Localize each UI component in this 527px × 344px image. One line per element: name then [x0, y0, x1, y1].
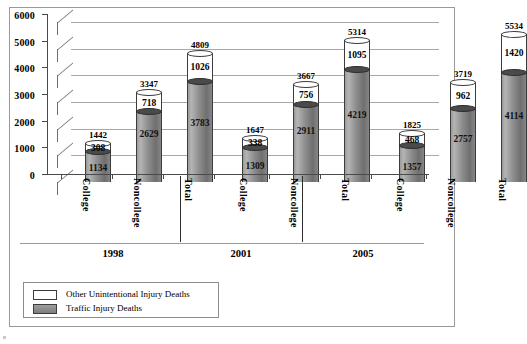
group-separator	[180, 176, 181, 242]
bar-segment-traffic: 2757	[450, 108, 476, 182]
bar-segment-label: 2757	[454, 134, 473, 144]
x-tick	[371, 175, 372, 179]
x-axis	[47, 174, 429, 175]
scan-artifact	[3, 336, 6, 339]
grid-riser	[57, 75, 73, 88]
y-tick: 3000	[42, 94, 48, 95]
grid-riser	[57, 22, 73, 35]
bar-segment-traffic: 4219	[344, 70, 370, 183]
bar-segment-traffic: 2629	[136, 112, 162, 182]
x-tick	[214, 175, 215, 179]
bar-2001-noncollege[interactable]: 3667 756 2911	[293, 84, 319, 182]
y-axis-label: 2000	[14, 116, 35, 127]
gridline-4000	[71, 75, 439, 76]
bar-segment-label: 1095	[348, 50, 367, 60]
bar-segment-traffic: 1309	[242, 147, 268, 182]
x-category-label: College	[395, 178, 406, 212]
gridline-5000	[71, 49, 439, 50]
x-category-label: Noncollege	[289, 178, 300, 228]
gridline-6000	[71, 22, 439, 23]
bar-segment-label: 308	[91, 143, 105, 153]
bar-segment-label: 468	[405, 135, 419, 145]
grid-riser	[57, 155, 73, 168]
bar-segment-label: 1026	[191, 62, 210, 72]
bar-total-label: 3347	[140, 79, 158, 89]
y-axis-label: 4000	[14, 63, 35, 74]
bar-segment-label: 2911	[297, 126, 315, 136]
bar-total-label: 5534	[505, 21, 523, 31]
group-label-1998: 1998	[58, 248, 168, 259]
y-axis-label: 5000	[14, 36, 35, 47]
group-label-2001: 2001	[186, 248, 296, 259]
bar-segment-label: 4114	[505, 111, 523, 121]
group-separator	[302, 176, 303, 242]
y-axis-label: 3000	[14, 90, 35, 101]
x-category-label: Total	[183, 178, 194, 201]
bar-1998-noncollege[interactable]: 3347 718 2629	[136, 93, 162, 182]
gridline-3000	[71, 102, 439, 103]
y-tick: 1000	[42, 147, 48, 148]
bar-total-label: 3719	[454, 69, 472, 79]
bar-2001-college[interactable]: 1647 338 1309	[242, 138, 268, 182]
bar-segment-label: 338	[248, 138, 262, 148]
legend: Other Unintentional Injury Deaths Traffi…	[23, 282, 219, 318]
bar-2005-total[interactable]: 5534 1420 4114	[501, 34, 527, 182]
y-tick: 4000	[42, 67, 48, 68]
x-tick	[112, 175, 113, 179]
bar-segment-traffic: 2911	[293, 104, 319, 182]
bar-segment-traffic: 3783	[187, 81, 213, 182]
y-tick: 5000	[42, 41, 48, 42]
legend-swatch-other	[33, 290, 57, 300]
plot-area: 1442 308 1134 3347 718 2629 4809	[57, 22, 439, 182]
x-category-label: College	[238, 178, 249, 212]
bar-segment-label: 1357	[403, 162, 422, 172]
bar-1998-college[interactable]: 1442 308 1134	[85, 144, 111, 182]
grid-riser	[57, 102, 73, 115]
bar-2001-total[interactable]: 5314 1095 4219	[344, 40, 370, 182]
x-category-label: Noncollege	[132, 178, 143, 228]
bar-segment-label: 1309	[246, 161, 265, 171]
chart-frame: 1442 308 1134 3347 718 2629 4809	[9, 7, 455, 327]
x-tick	[269, 175, 270, 179]
bar-segment-traffic: 1357	[399, 146, 425, 182]
grid-riser	[57, 182, 73, 195]
y-tick: 2000	[42, 121, 48, 122]
y-tick: 6000	[42, 14, 48, 15]
group-label-2005: 2005	[308, 248, 418, 259]
bar-total-label: 1442	[89, 130, 107, 140]
bar-segment-label: 718	[142, 98, 156, 108]
grid-riser	[57, 49, 73, 62]
y-axis: 6000 5000 4000 3000 2000 1000 0	[47, 14, 48, 174]
x-category-label: Noncollege	[446, 178, 457, 228]
bar-total-label: 5314	[348, 27, 366, 37]
legend-label-traffic: Traffic Injury Deaths	[66, 303, 142, 313]
bar-total-label: 1825	[403, 120, 421, 130]
y-axis-label: 1000	[14, 143, 35, 154]
bar-segment-label: 2629	[140, 129, 159, 139]
x-category-label: Total	[340, 178, 351, 201]
bar-segment-label: 3783	[191, 118, 210, 128]
bar-segment-other: 1420	[501, 34, 527, 72]
x-category-label: Total	[497, 178, 508, 201]
x-tick	[61, 175, 62, 179]
grid-riser	[57, 129, 73, 142]
bar-total-label: 4809	[191, 40, 209, 50]
x-tick	[163, 175, 164, 179]
year-rule	[20, 243, 424, 244]
bar-segment-traffic: 4114	[501, 72, 527, 182]
legend-swatch-traffic	[33, 304, 57, 314]
bar-segment-label: 1420	[505, 48, 524, 58]
x-category-label: College	[81, 178, 92, 212]
bar-2005-noncollege[interactable]: 3719 962 2757	[450, 83, 476, 182]
bar-segment-label: 4219	[348, 110, 367, 120]
bar-total-label: 3667	[297, 71, 315, 81]
bar-total-label: 1647	[246, 125, 264, 135]
bar-1998-total[interactable]: 4809 1026 3783	[187, 54, 213, 182]
x-tick	[426, 175, 427, 179]
y-axis-label: 6000	[14, 10, 35, 21]
bar-segment-label: 1134	[89, 163, 107, 173]
x-tick	[320, 175, 321, 179]
bar-segment-label: 756	[299, 90, 313, 100]
legend-label-other: Other Unintentional Injury Deaths	[66, 289, 190, 299]
y-axis-label: 0	[30, 170, 35, 181]
